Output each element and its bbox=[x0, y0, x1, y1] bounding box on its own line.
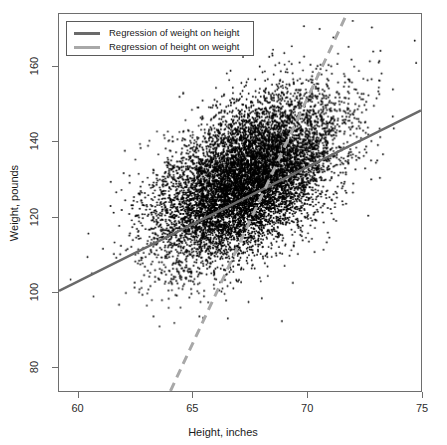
plot-panel bbox=[58, 13, 422, 392]
x-axis-title: Height, inches bbox=[188, 427, 258, 438]
x-axis-tick bbox=[78, 392, 79, 398]
y-axis-tick-label: 100 bbox=[29, 283, 40, 301]
x-axis-tick-label: 60 bbox=[71, 403, 83, 414]
scatter-plot-figure: Regression of weight on height Regressio… bbox=[0, 0, 447, 445]
x-axis-tick bbox=[307, 392, 308, 398]
regression-lines-layer bbox=[59, 14, 421, 391]
y-axis-tick-label: 120 bbox=[29, 207, 40, 225]
y-axis-tick bbox=[52, 66, 58, 67]
x-axis-tick bbox=[192, 392, 193, 398]
legend-label-weight-on-height: Regression of weight on height bbox=[109, 28, 239, 38]
legend-key-solid-line-icon bbox=[74, 32, 100, 35]
y-axis-tick bbox=[52, 292, 58, 293]
x-axis-tick bbox=[422, 392, 423, 398]
y-axis-tick-label: 80 bbox=[29, 361, 40, 373]
x-axis-tick-label: 70 bbox=[301, 403, 313, 414]
regression-line-height-on-weight bbox=[170, 14, 346, 391]
legend-box: Regression of weight on height Regressio… bbox=[66, 21, 254, 56]
y-axis-tick bbox=[52, 367, 58, 368]
regression-line-weight-on-height bbox=[59, 110, 421, 290]
y-axis-title: Weight, pounds bbox=[9, 165, 20, 241]
legend-label-height-on-weight: Regression of height on weight bbox=[109, 42, 239, 52]
y-axis-tick-label: 140 bbox=[29, 132, 40, 150]
x-axis-tick-label: 65 bbox=[186, 403, 198, 414]
y-axis-tick-label: 160 bbox=[29, 57, 40, 75]
legend-item-height-on-weight: Regression of height on weight bbox=[74, 40, 246, 54]
legend-item-weight-on-height: Regression of weight on height bbox=[74, 26, 246, 40]
y-axis-tick bbox=[52, 141, 58, 142]
y-axis-tick bbox=[52, 217, 58, 218]
legend-key-dashed-line-icon bbox=[74, 46, 100, 49]
x-axis-tick-label: 75 bbox=[416, 403, 428, 414]
